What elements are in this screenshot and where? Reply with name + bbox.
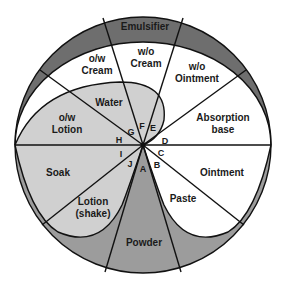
point-a: A xyxy=(140,164,147,174)
lotion-shake-label-2: (shake) xyxy=(75,208,110,219)
powder-label: Powder xyxy=(126,237,162,248)
point-f: F xyxy=(139,121,145,131)
ow-lotion-label-1: o/w xyxy=(59,112,76,123)
lotion-shake-label-1: Lotion xyxy=(78,196,109,207)
point-g: G xyxy=(127,127,134,137)
wo-cream-label-2: Cream xyxy=(130,58,161,69)
point-b: B xyxy=(154,160,161,170)
absorption-base-label-2: base xyxy=(212,124,235,135)
point-i: I xyxy=(120,149,123,159)
absorption-base-label-1: Absorption xyxy=(196,112,249,123)
point-e: E xyxy=(150,123,156,133)
center-point xyxy=(141,143,146,148)
emulsifier-label: Emulsifier xyxy=(121,21,169,32)
ow-cream-label-2: Cream xyxy=(81,65,112,76)
water-label: Water xyxy=(95,97,123,108)
wo-ointment-label-2: Ointment xyxy=(175,73,220,84)
ow-lotion-label-2: Lotion xyxy=(52,124,83,135)
point-d: D xyxy=(162,136,169,146)
paste-label: Paste xyxy=(170,193,197,204)
ointment-label: Ointment xyxy=(200,167,245,178)
point-h: H xyxy=(116,135,123,145)
wo-ointment-label-1: w/o xyxy=(188,61,206,72)
wo-cream-label-1: w/o xyxy=(137,46,155,57)
point-c: C xyxy=(158,148,165,158)
point-j: J xyxy=(127,159,132,169)
pharmaceutical-vehicle-diagram: Emulsifier o/w Cream w/o Cream w/o Ointm… xyxy=(0,0,284,287)
ow-cream-label-1: o/w xyxy=(89,53,106,64)
soak-label: Soak xyxy=(46,167,70,178)
